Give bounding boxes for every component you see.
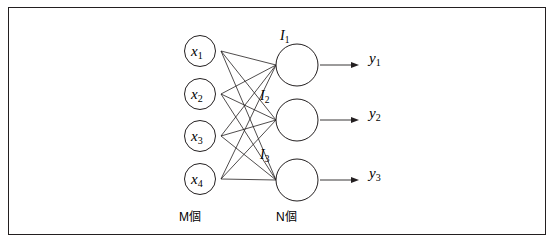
hidden-node-2 — [276, 99, 318, 141]
input-label-sub-4: 4 — [198, 178, 203, 189]
edge-x1-i1 — [221, 51, 276, 65]
output-arrow-2-head — [351, 117, 359, 123]
output-arrow-1-head — [351, 62, 359, 68]
output-label-base-1: y — [369, 50, 376, 66]
hidden-node-1 — [276, 44, 318, 86]
output-arrow-3-head — [351, 177, 359, 183]
input-node-label-1: x1 — [191, 44, 203, 61]
output-label-base-3: y — [369, 165, 376, 181]
hidden-node-label-3: I3 — [260, 148, 269, 164]
edge-x1-i2 — [221, 51, 276, 120]
input-label-sub-3: 3 — [198, 135, 203, 146]
input-node-label-4: x4 — [191, 172, 203, 189]
output-label-1: y1 — [369, 51, 381, 68]
output-label-2: y2 — [369, 106, 381, 123]
input-label-base-2: x — [191, 86, 198, 102]
hidden-label-sub-2: 2 — [265, 95, 270, 105]
input-layer-caption: M個 — [179, 211, 201, 223]
output-label-sub-3: 3 — [376, 172, 381, 183]
input-label-sub-1: 1 — [198, 50, 203, 61]
hidden-node-label-1: I1 — [280, 29, 289, 45]
hidden-node-label-2: I2 — [260, 89, 269, 105]
input-node-label-2: x2 — [191, 87, 203, 104]
input-node-label-3: x3 — [191, 129, 203, 146]
output-label-3: y3 — [369, 166, 381, 183]
output-label-base-2: y — [369, 105, 376, 121]
hidden-node-3 — [276, 159, 318, 201]
input-label-base-1: x — [191, 43, 198, 59]
output-label-sub-1: 1 — [376, 57, 381, 68]
hidden-layer-caption: N個 — [276, 211, 297, 223]
output-label-sub-2: 2 — [376, 112, 381, 123]
input-label-base-3: x — [191, 128, 198, 144]
input-label-sub-2: 2 — [198, 93, 203, 104]
hidden-label-sub-1: 1 — [285, 35, 290, 45]
figure-border: x1 x2 x3 x4 I1 I2 I3 y1 y2 y3 M個 N個 — [8, 7, 546, 235]
input-label-base-4: x — [191, 171, 198, 187]
edge-x4-i3 — [221, 179, 276, 180]
network-diagram — [9, 8, 547, 236]
hidden-label-sub-3: 3 — [265, 154, 270, 164]
